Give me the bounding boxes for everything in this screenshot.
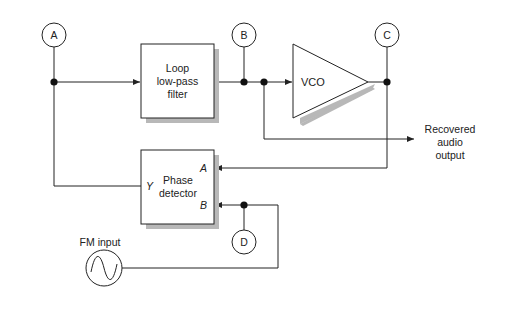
- phase-detector-label-2: detector: [159, 187, 197, 199]
- filter-label-2: low-pass: [157, 75, 198, 87]
- svg-text:Recovered: Recovered: [425, 123, 476, 135]
- filter-label-3: filter: [168, 88, 188, 100]
- fm-input-source: FM input: [80, 236, 122, 286]
- test-point-d: D: [232, 230, 256, 254]
- svg-text:C: C: [383, 29, 391, 41]
- test-point-a: A: [42, 23, 66, 47]
- svg-text:output: output: [435, 149, 464, 161]
- svg-text:A: A: [50, 29, 57, 41]
- audio-output-label: Recovered audio output: [425, 123, 476, 161]
- junction-node: [383, 78, 390, 85]
- svg-text:B: B: [240, 29, 247, 41]
- phase-detector-block: Phase detector A B Y: [141, 150, 219, 229]
- junction-node: [240, 201, 247, 208]
- phase-detector-label-1: Phase: [163, 174, 193, 186]
- junction-node: [240, 78, 247, 85]
- test-point-b: B: [232, 23, 256, 47]
- pd-input-a-label: A: [199, 162, 207, 174]
- junction-node: [50, 78, 57, 85]
- loop-filter-block: Loop low-pass filter: [141, 44, 219, 123]
- pd-output-y-label: Y: [146, 180, 154, 192]
- svg-text:D: D: [240, 236, 248, 248]
- pd-input-b-label: B: [200, 199, 207, 211]
- vco-block: VCO: [293, 44, 375, 126]
- junction-node: [260, 78, 267, 85]
- fm-input-label: FM input: [80, 236, 121, 248]
- pll-diagram: Loop low-pass filter VCO Phase detector …: [0, 0, 505, 309]
- test-point-c: C: [375, 23, 399, 47]
- svg-text:audio: audio: [437, 136, 463, 148]
- vco-label: VCO: [301, 76, 325, 88]
- filter-label-1: Loop: [166, 62, 190, 74]
